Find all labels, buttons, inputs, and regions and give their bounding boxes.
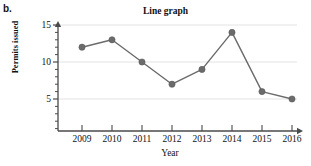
figure-container: b. Line graph Permits issued Year 51015 … [0, 0, 311, 166]
data-point [139, 59, 145, 65]
x-tick-label: 2011 [133, 134, 152, 144]
data-point [229, 29, 235, 35]
line-chart-plot: 51015 20092010201120122013201420152016 [0, 0, 311, 166]
x-tick-label: 2010 [103, 134, 122, 144]
data-point [259, 89, 265, 95]
y-major-ticks-group [53, 25, 58, 99]
y-tick-label: 10 [42, 57, 52, 67]
data-points-group [79, 29, 295, 102]
gridlines-group [58, 25, 297, 99]
data-point [79, 44, 85, 50]
x-ticks-group [82, 125, 292, 131]
x-tick-label: 2012 [163, 134, 182, 144]
data-point [199, 66, 205, 72]
x-tick-labels-group: 20092010201120122013201420152016 [73, 134, 302, 144]
x-tick-label: 2016 [283, 134, 302, 144]
x-tick-label: 2013 [193, 134, 212, 144]
y-tick-labels-group: 51015 [42, 20, 52, 104]
x-tick-label: 2015 [253, 134, 272, 144]
y-axis-arrowhead [55, 21, 61, 27]
x-tick-label: 2009 [73, 134, 92, 144]
data-point [109, 37, 115, 43]
data-point [289, 96, 295, 102]
axis-lines-group [55, 21, 303, 134]
x-tick-label: 2014 [223, 134, 242, 144]
data-point [169, 81, 175, 87]
y-tick-label: 15 [42, 20, 52, 30]
y-tick-label: 5 [46, 94, 51, 104]
